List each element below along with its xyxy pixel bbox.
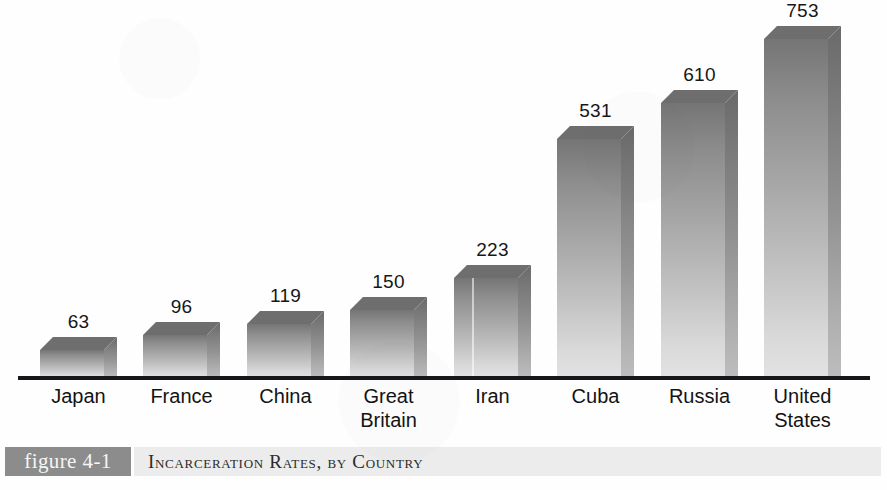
bar-value-label: 753 (764, 0, 841, 22)
category-label-japan: Japan (28, 384, 129, 408)
figure-caption: figure 4-1 Incarceration Rates, by Count… (5, 447, 881, 476)
category-label-line-1: Great (363, 385, 413, 407)
bar-cuba (557, 126, 634, 378)
category-label-russia: Russia (649, 384, 750, 408)
bar-france (143, 322, 220, 378)
bar-russia (661, 90, 738, 378)
category-label-france: France (131, 384, 232, 408)
bar-side-face (725, 90, 738, 378)
bar-side-face (414, 297, 427, 378)
figure-page: 6396119150223531610753 JapanFranceChinaG… (0, 0, 887, 490)
bar-chart-plot: 6396119150223531610753 (0, 0, 887, 382)
category-label-line-1: France (150, 385, 212, 407)
category-label-line-1: United (774, 385, 832, 407)
bar-top-face (557, 126, 634, 139)
bar-front-face (661, 103, 725, 378)
chart-baseline-axis (18, 376, 870, 380)
bar-value-label: 223 (454, 239, 531, 261)
bar-value-label: 119 (247, 285, 324, 307)
category-label-line-1: China (259, 385, 311, 407)
bar-front-face (454, 278, 518, 378)
bar-value-label: 610 (661, 64, 738, 86)
bar-front-face (350, 310, 414, 378)
bar-front-face (764, 39, 828, 378)
bar-side-face (621, 126, 634, 378)
scan-artifact-line (472, 278, 474, 378)
bar-great-britain (350, 297, 427, 378)
category-label-line-1: Cuba (572, 385, 620, 407)
bar-value-label: 531 (557, 100, 634, 122)
bar-top-face (454, 265, 531, 278)
bar-top-face (247, 311, 324, 324)
category-label-line-1: Japan (51, 385, 106, 407)
figure-number-tag: figure 4-1 (5, 447, 131, 476)
category-label-united-states: UnitedStates (752, 384, 853, 432)
category-label-line-1: Iran (475, 385, 509, 407)
bar-top-face (143, 322, 220, 335)
category-label-cuba: Cuba (545, 384, 646, 408)
bar-front-face (40, 350, 104, 378)
category-label-line-2: Britain (338, 408, 439, 432)
bar-value-label: 96 (143, 296, 220, 318)
category-label-line-1: Russia (669, 385, 730, 407)
category-label-iran: Iran (442, 384, 543, 408)
bar-front-face (247, 324, 311, 378)
bar-china (247, 311, 324, 378)
bar-iran (454, 265, 531, 378)
bar-top-face (350, 297, 427, 310)
bar-side-face (518, 265, 531, 378)
bar-side-face (828, 26, 841, 378)
bar-top-face (764, 26, 841, 39)
bar-front-face (557, 139, 621, 378)
bar-top-face (40, 337, 117, 350)
figure-caption-text: Incarceration Rates, by Country (134, 447, 881, 476)
bar-value-label: 63 (40, 311, 117, 333)
category-axis-labels: JapanFranceChinaGreatBritainIranCubaRuss… (0, 384, 887, 440)
bar-value-label: 150 (350, 271, 427, 293)
category-label-great-britain: GreatBritain (338, 384, 439, 432)
bar-top-face (661, 90, 738, 103)
category-label-china: China (235, 384, 336, 408)
bar-front-face (143, 335, 207, 378)
bar-japan (40, 337, 117, 378)
bar-united-states (764, 26, 841, 378)
category-label-line-2: States (752, 408, 853, 432)
